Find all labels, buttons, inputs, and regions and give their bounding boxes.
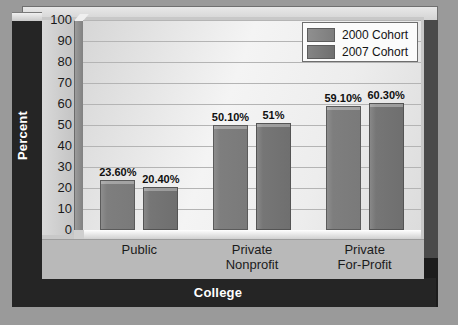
bar-value-label: 60.30% bbox=[359, 89, 414, 101]
bar-value-label: 51% bbox=[246, 109, 301, 121]
bar-top-highlight bbox=[370, 104, 403, 107]
bar-top-highlight bbox=[214, 126, 247, 129]
legend-item-1: 2007 Cohort bbox=[307, 43, 413, 60]
y-axis-tick-label: 60 bbox=[42, 97, 72, 110]
grid-line bbox=[83, 20, 421, 21]
y-axis-scale: 1009080706050403020100 bbox=[42, 20, 74, 235]
legend-swatch-icon-0 bbox=[307, 28, 335, 42]
x-axis-category-line: Private bbox=[323, 242, 407, 257]
y-axis-tick-label: 0 bbox=[42, 223, 72, 236]
grid-line bbox=[83, 62, 421, 63]
x-axis-category-line: Public bbox=[97, 242, 181, 257]
legend-label-1: 2007 Cohort bbox=[342, 46, 408, 58]
bar-top-highlight bbox=[257, 124, 290, 127]
x-axis-category-line: Nonprofit bbox=[210, 257, 294, 272]
bar-top-highlight bbox=[101, 181, 134, 184]
bar-top-highlight bbox=[144, 188, 177, 191]
x-axis-category-line: For-Profit bbox=[323, 257, 407, 272]
x-axis-category-label: Public bbox=[97, 242, 181, 257]
bar-chart: 1009080706050403020100 PublicPrivateNonp… bbox=[0, 0, 458, 325]
x-axis-category-line: Private bbox=[210, 242, 294, 257]
y-axis-tick-label: 20 bbox=[42, 181, 72, 194]
bar-1-1 bbox=[256, 123, 291, 230]
legend-swatch-icon-1 bbox=[307, 45, 335, 59]
category-axis-strip: PublicPrivateNonprofitPrivateFor-Profit bbox=[42, 239, 424, 279]
x-axis-category-label: PrivateFor-Profit bbox=[323, 242, 407, 272]
y-axis-tick-label: 80 bbox=[42, 55, 72, 68]
bar-value-label: 20.40% bbox=[133, 173, 188, 185]
legend: 2000 Cohort 2007 Cohort bbox=[302, 22, 418, 62]
y-axis-tick-label: 40 bbox=[42, 139, 72, 152]
y-axis-tick-label: 30 bbox=[42, 160, 72, 173]
bar-top-highlight bbox=[327, 107, 360, 110]
bar-0-2 bbox=[326, 106, 361, 230]
x-axis-title: College bbox=[12, 285, 424, 300]
plot-floor-left bbox=[74, 230, 84, 239]
bar-1-2 bbox=[369, 103, 404, 230]
y-axis-title: Percent bbox=[15, 91, 30, 181]
legend-label-0: 2000 Cohort bbox=[342, 29, 408, 41]
legend-item-0: 2000 Cohort bbox=[307, 26, 413, 43]
bar-1-0 bbox=[143, 187, 178, 230]
y-axis-tick-label: 90 bbox=[42, 34, 72, 47]
y-axis-tick-label: 100 bbox=[42, 13, 72, 26]
grid-line bbox=[83, 83, 421, 84]
x-axis-category-label: PrivateNonprofit bbox=[210, 242, 294, 272]
frame-left-cap bbox=[12, 12, 42, 21]
y-axis-tick-label: 10 bbox=[42, 202, 72, 215]
bar-0-1 bbox=[213, 125, 248, 230]
y-axis-tick-label: 50 bbox=[42, 118, 72, 131]
bar-0-0 bbox=[100, 180, 135, 230]
y-axis-tick-label: 70 bbox=[42, 76, 72, 89]
